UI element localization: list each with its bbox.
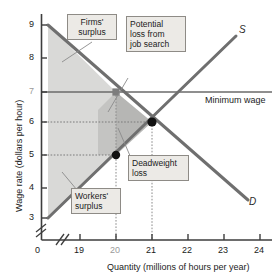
equilibrium-point-marker — [147, 117, 156, 126]
y-tick-label-4: 4 — [29, 182, 34, 192]
y-tick-label-6: 6 — [29, 116, 34, 126]
x-tick-label-23: 23 — [218, 245, 228, 255]
callout-firms-surplus: Firms' surplus — [67, 14, 117, 40]
x-tick-label-19: 19 — [74, 245, 84, 255]
y-tick-label-7: 7 — [29, 86, 34, 96]
supply-curve-label: S — [239, 24, 246, 35]
supply-at-min-wage-marker — [112, 151, 120, 159]
y-tick-label-8: 8 — [29, 52, 34, 62]
y-axis-title: Wage rate (dollars per hour) — [14, 100, 24, 212]
x-tick-label-22: 22 — [182, 245, 192, 255]
y-tick-label-5: 5 — [29, 149, 34, 159]
x-tick-label-0: 0 — [35, 245, 40, 255]
x-axis-title: Quantity (millions of hours per year) — [107, 262, 250, 272]
y-tick-label-3: 3 — [29, 212, 34, 222]
callout-workers-surplus: Workers' surplus — [71, 188, 121, 214]
x-tick-label-21: 21 — [146, 245, 156, 255]
y-tick-marks — [42, 25, 48, 218]
x-tick-label-20: 20 — [110, 245, 120, 255]
callout-deadweight-loss: Deadweight loss — [128, 155, 189, 181]
callout-potential-loss: Potential loss from job search — [126, 16, 186, 52]
x-tick-marks — [80, 234, 260, 240]
x-tick-label-24: 24 — [254, 245, 264, 255]
demand-curve-label: D — [249, 196, 256, 207]
chart-figure: 9 8 7 6 5 4 3 0 19 20 21 22 23 24 Quanti… — [0, 0, 280, 280]
y-tick-label-9: 9 — [29, 19, 34, 29]
minimum-wage-label: Minimum wage — [205, 95, 266, 106]
